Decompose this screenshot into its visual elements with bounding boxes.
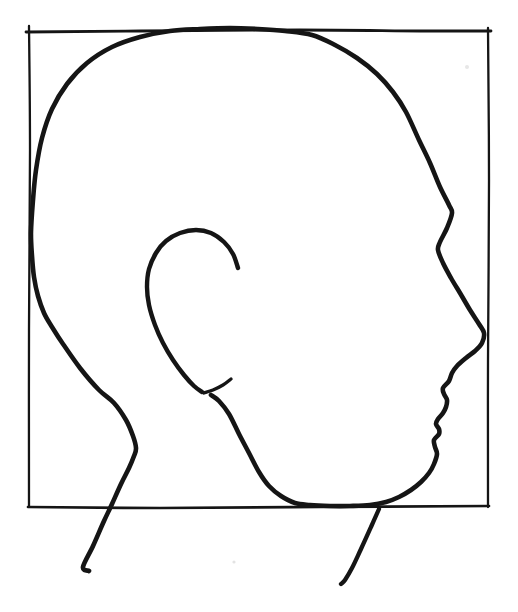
ear-lobe-hook bbox=[204, 379, 231, 393]
neck-front-line bbox=[341, 509, 379, 584]
sketch-page bbox=[0, 0, 518, 612]
frame-right-line bbox=[488, 28, 489, 507]
paper-speck bbox=[465, 65, 469, 69]
paper-speck bbox=[232, 560, 235, 563]
frame-bottom-line bbox=[28, 506, 489, 508]
head-outline bbox=[31, 28, 484, 571]
ear-outline bbox=[147, 230, 238, 392]
head-profile-sketch bbox=[0, 0, 518, 612]
frame-left-line bbox=[29, 26, 30, 506]
